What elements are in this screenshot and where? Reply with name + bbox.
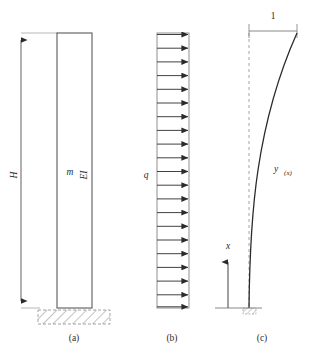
engineering-figure: H m EI (a) <box>0 0 323 354</box>
panel-a: H m EI (a) <box>9 33 110 344</box>
load-block <box>157 33 189 308</box>
x-axis-label: x <box>225 241 231 251</box>
deflection-arg-label: (x) <box>284 169 292 177</box>
height-label: H <box>9 170 19 179</box>
figure-canvas: H m EI (a) <box>0 0 323 354</box>
stiffness-label: EI <box>79 170 89 181</box>
panel-a-caption: (a) <box>69 333 80 344</box>
column-body <box>57 33 92 308</box>
foundation-hatch <box>38 310 110 324</box>
panel-c-caption: (c) <box>257 333 268 344</box>
panel-b: q (b) <box>144 33 189 344</box>
panel-b-caption: (b) <box>166 333 177 344</box>
load-label: q <box>144 170 149 180</box>
panel-c: 1 y (x) x (c) <box>215 11 297 344</box>
base-support-hatch <box>243 308 256 314</box>
mass-label: m <box>67 167 74 177</box>
deflection-label: y <box>273 164 279 174</box>
tip-dimension-label: 1 <box>271 11 276 21</box>
